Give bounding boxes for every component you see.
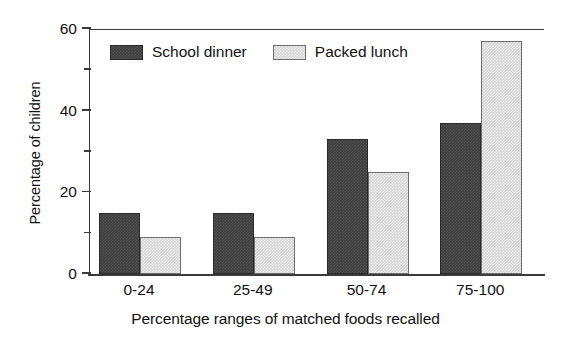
legend-entry: School dinner	[110, 43, 247, 61]
y-tick-label: 0	[68, 265, 81, 283]
legend-entry: Packed lunch	[273, 43, 408, 61]
y-tick-label: 40	[60, 102, 81, 120]
bar	[254, 237, 295, 274]
bar-chart-figure: Percentage of children 0204060 0-2425-49…	[0, 0, 571, 347]
bar	[327, 139, 368, 274]
plot-area: 0204060	[89, 29, 544, 274]
bar	[440, 123, 481, 274]
dark-swatch-icon	[110, 45, 143, 60]
x-tick-label: 0-24	[123, 281, 154, 299]
bar	[99, 213, 140, 274]
bar	[140, 237, 181, 274]
y-tick-label: 20	[60, 183, 81, 201]
y-tick-minor	[84, 68, 91, 70]
legend-label: Packed lunch	[315, 43, 408, 61]
bar	[481, 41, 522, 274]
x-tick-label: 25-49	[233, 281, 273, 299]
y-tick-major	[82, 109, 91, 111]
x-axis-title: Percentage ranges of matched foods recal…	[0, 310, 571, 328]
legend-label: School dinner	[152, 43, 247, 61]
x-tick-label: 50-74	[347, 281, 387, 299]
y-tick-minor	[84, 150, 91, 152]
bar	[213, 213, 254, 274]
x-tick-label: 75-100	[456, 281, 504, 299]
light-swatch-icon	[273, 45, 306, 60]
y-tick-label: 60	[60, 20, 81, 38]
bar	[368, 172, 409, 274]
y-axis-title: Percentage of children	[27, 38, 43, 268]
y-tick-major	[82, 27, 91, 29]
chart-legend: School dinnerPacked lunch	[110, 43, 408, 61]
y-tick-major	[82, 191, 91, 193]
y-tick-minor	[84, 232, 91, 234]
x-axis-line	[88, 274, 545, 276]
